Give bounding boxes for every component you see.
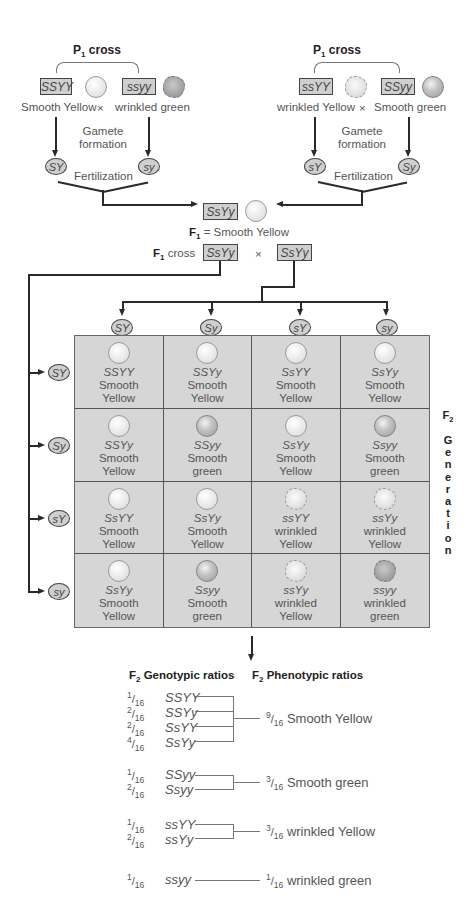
cell-phenotype-shape: wrinkled	[252, 525, 340, 537]
f2-generation-label: F2	[440, 409, 456, 424]
genotype-ratio-row: 2/16ssYy	[127, 832, 144, 850]
smooth-yellow-seed-icon	[374, 342, 396, 364]
cell-genotype: Ssyy	[341, 439, 430, 451]
right-parent1-genotype: ssYY	[299, 78, 333, 95]
cell-phenotype-shape: Smooth	[341, 379, 430, 391]
arrow-right-icon	[38, 442, 45, 448]
cell-phenotype-color: Yellow	[75, 610, 163, 622]
arrow-left-icon	[276, 201, 283, 207]
f1-cross-symbol: ×	[255, 248, 262, 260]
f1-cross-parent1: SsYy	[203, 244, 238, 261]
genotype-ratio-row: 4/16SsYy	[127, 735, 144, 753]
right-gamete-formation: Gameteformation	[337, 125, 387, 151]
f1-cross-label: F1 cross	[153, 247, 195, 262]
left-parent1-genotype: SSYY	[40, 78, 72, 95]
wrinkled-yellow-seed-icon	[285, 560, 307, 582]
smooth-green-seed-icon	[422, 76, 444, 98]
cell-phenotype-color: Yellow	[164, 392, 252, 404]
cell-phenotype-color: Yellow	[252, 465, 340, 477]
cell-phenotype-color: green	[341, 465, 430, 477]
phenotype-ratio: 3/16 wrinkled Yellow	[266, 823, 375, 841]
left-parent2-label: wrinkled green	[115, 101, 190, 113]
cell-phenotype-color: Yellow	[341, 392, 430, 404]
row-gamete: sY	[48, 510, 70, 527]
cell-genotype: SsYy	[164, 512, 252, 524]
wrinkled-green-seed-icon	[163, 76, 185, 98]
right-fertilization: Fertilization	[334, 170, 393, 182]
smooth-green-seed-icon	[196, 560, 218, 582]
cell-genotype: SSYY	[75, 366, 163, 378]
left-gamete-1: SY	[45, 158, 67, 175]
smooth-yellow-seed-icon	[196, 488, 218, 510]
right-cross-symbol: ×	[359, 102, 366, 114]
smooth-green-seed-icon	[374, 415, 396, 437]
left-fertilization: Fertilization	[74, 170, 133, 182]
punnett-cell: SsYySmoothYellow	[164, 482, 253, 555]
arrow-down-icon	[311, 150, 317, 157]
cell-genotype: SsYY	[75, 512, 163, 524]
smooth-yellow-seed-icon	[85, 76, 107, 98]
punnett-cell: SsYySmoothYellow	[75, 554, 164, 627]
genotype-ratio-row: 1/16ssyy	[127, 872, 144, 890]
cell-phenotype-color: Yellow	[341, 538, 430, 550]
smooth-yellow-seed-icon	[108, 560, 130, 582]
cell-genotype: SSYy	[164, 366, 252, 378]
cell-phenotype-shape: Smooth	[164, 597, 252, 609]
arrow-right-icon	[38, 515, 45, 521]
arrow-down-icon	[297, 309, 303, 316]
cell-phenotype-shape: Smooth	[252, 452, 340, 464]
right-parent2-genotype: SSyy	[381, 78, 415, 95]
right-gamete-2: Sy	[398, 158, 420, 175]
cell-phenotype-shape: Smooth	[75, 379, 163, 391]
arrow-right-icon	[191, 201, 198, 207]
punnett-cell: ssYywrinkledYellow	[252, 554, 341, 627]
cell-genotype: SsYy	[252, 439, 340, 451]
cell-genotype: ssyy	[341, 584, 430, 596]
wrinkled-green-seed-icon	[374, 560, 396, 582]
right-parent2-label: Smooth green	[374, 101, 446, 113]
wrinkled-yellow-seed-icon	[285, 488, 307, 510]
cell-phenotype-shape: wrinkled	[252, 597, 340, 609]
phenotypic-ratios-header: F2 Phenotypic ratios	[252, 669, 363, 684]
cell-phenotype-color: Yellow	[252, 610, 340, 622]
smooth-yellow-seed-icon	[245, 200, 267, 222]
cell-phenotype-shape: wrinkled	[341, 597, 430, 609]
cell-genotype: ssYy	[341, 512, 430, 524]
column-gamete: sy	[376, 319, 398, 336]
punnett-cell: SsyySmoothgreen	[341, 409, 430, 482]
column-gamete: SY	[111, 319, 133, 336]
punnett-cell: SsYYSmoothYellow	[75, 482, 164, 555]
cell-phenotype-shape: Smooth	[164, 452, 252, 464]
left-p1-title: P1 cross	[73, 43, 121, 59]
cell-phenotype-shape: Smooth	[164, 525, 252, 537]
punnett-cell: SsYySmoothYellow	[252, 409, 341, 482]
smooth-yellow-seed-icon	[196, 342, 218, 364]
punnett-cell: ssyywrinkledgreen	[341, 554, 430, 627]
right-gamete-1: sY	[304, 158, 326, 175]
wrinkled-yellow-seed-icon	[374, 488, 396, 510]
cell-phenotype-shape: Smooth	[252, 379, 340, 391]
arrow-down-icon	[208, 309, 214, 316]
cell-genotype: SsYy	[75, 584, 163, 596]
punnett-cell: ssYYwrinkledYellow	[252, 482, 341, 555]
cell-phenotype-color: Yellow	[164, 538, 252, 550]
smooth-yellow-seed-icon	[108, 488, 130, 510]
genotype-ratio-row: 2/16Ssyy	[127, 782, 144, 800]
cell-phenotype-shape: Smooth	[75, 525, 163, 537]
left-gamete-formation: Gameteformation	[78, 125, 128, 151]
f1-label: F1 = Smooth Yellow	[189, 226, 289, 241]
smooth-yellow-seed-icon	[108, 415, 130, 437]
phenotype-ratio: 3/16 Smooth green	[266, 774, 369, 792]
left-parent2-genotype: ssyy	[122, 78, 156, 95]
row-gamete: sy	[48, 583, 70, 600]
punnett-cell: SsYYSmoothYellow	[252, 336, 341, 409]
smooth-green-seed-icon	[196, 415, 218, 437]
punnett-cell: SSYYSmoothYellow	[75, 336, 164, 409]
cell-phenotype-color: Yellow	[252, 392, 340, 404]
row-gamete: SY	[48, 364, 70, 381]
smooth-yellow-seed-icon	[108, 342, 130, 364]
cell-phenotype-color: Yellow	[75, 465, 163, 477]
cell-genotype: SSYy	[75, 439, 163, 451]
left-gamete-2: sy	[138, 158, 160, 175]
right-p1-brace	[314, 62, 400, 73]
